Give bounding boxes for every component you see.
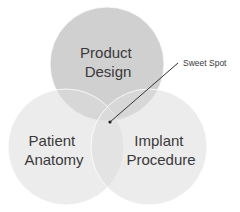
circles-group	[8, 7, 207, 205]
venn-diagram: Product Design Patient Anatomy Implant P…	[0, 0, 240, 212]
venn-svg: Product Design Patient Anatomy Implant P…	[0, 0, 240, 212]
callout-dot	[108, 120, 111, 123]
sweet-spot-label: Sweet Spot	[183, 58, 227, 68]
